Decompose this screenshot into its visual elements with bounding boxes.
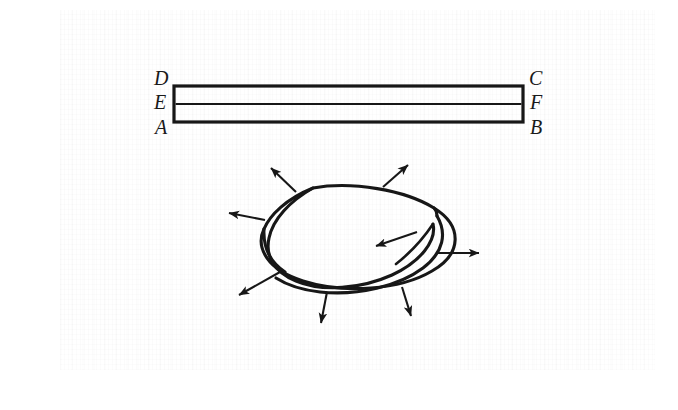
label-D: D — [154, 68, 168, 88]
label-E: E — [154, 92, 166, 112]
label-A: A — [155, 117, 167, 137]
figure-canvas — [0, 0, 678, 410]
band-inner-edge — [268, 188, 434, 288]
arrow-top-left — [271, 168, 296, 192]
figure-root: D C E F A B — [0, 0, 678, 410]
label-B: B — [530, 117, 542, 137]
band-interior-seam — [396, 224, 433, 264]
arrow-inner-interior — [376, 232, 417, 246]
label-C: C — [529, 68, 542, 88]
arrow-bottom-left — [321, 292, 327, 323]
band-outer-top-edge — [261, 186, 455, 289]
arrow-bottom-right — [402, 287, 411, 316]
arrow-top-right — [383, 165, 408, 187]
band-right-thickness-edge — [434, 208, 437, 216]
label-F: F — [530, 92, 542, 112]
rectangular-strip — [174, 86, 523, 122]
arrow-lower-left — [239, 272, 280, 295]
mobius-band — [229, 165, 479, 323]
arrow-left — [229, 213, 265, 220]
